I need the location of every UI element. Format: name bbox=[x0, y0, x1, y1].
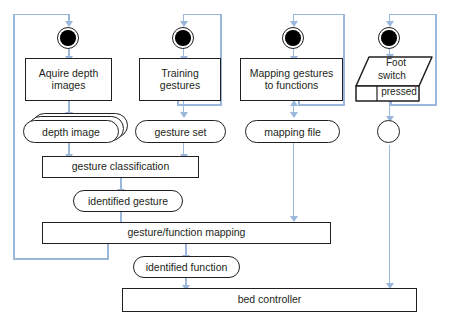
action-bed-controller[interactable]: bed controller bbox=[122, 288, 417, 312]
connector-loop4-bottom bbox=[390, 104, 436, 106]
object-node-gesture-set-label: gesture set bbox=[155, 126, 207, 138]
action-bed-controller-label: bed controller bbox=[235, 294, 305, 306]
action-training-gestures[interactable]: Training gestures bbox=[139, 58, 221, 101]
start-node-acquire-depth-images[interactable] bbox=[57, 27, 79, 49]
object-node-depth-image-label: depth image bbox=[42, 126, 100, 138]
object-node-identified-gesture[interactable]: identified gesture bbox=[73, 190, 183, 212]
arrowhead-gestureset bbox=[180, 112, 188, 118]
connector-loop2-top bbox=[183, 14, 222, 16]
arrowhead-mappingfile-down bbox=[290, 112, 298, 118]
action-mapping-gestures-line2: to functions bbox=[265, 79, 319, 91]
object-node-depth-image[interactable]: depth image bbox=[23, 120, 119, 143]
connector-loop3-right bbox=[343, 14, 345, 106]
connector-loop4-top bbox=[389, 14, 437, 16]
connector-mappingfile-to-mapping bbox=[293, 142, 295, 218]
action-gesture-classification-label: gesture classification bbox=[69, 161, 172, 173]
activity-diagram-canvas: Aquire depth images Training gestures Ma… bbox=[0, 0, 449, 324]
object-node-identified-function[interactable]: identified function bbox=[133, 256, 240, 278]
action-acquire-depth-images-line2: images bbox=[52, 79, 86, 91]
foot-switch-label-line1: Foot bbox=[371, 58, 421, 69]
connector-loop1-bottom bbox=[13, 258, 109, 260]
action-acquire-depth-images[interactable]: Aquire depth images bbox=[25, 58, 112, 101]
action-gesture-function-mapping-label: gesture/function mapping bbox=[125, 227, 249, 239]
signal-foot-switch-pressed[interactable]: Foot switch pressed bbox=[355, 56, 433, 102]
action-acquire-depth-images-line1: Aquire depth bbox=[39, 67, 99, 79]
action-training-gestures-line1: Training bbox=[161, 67, 199, 79]
start-node-foot-switch[interactable] bbox=[378, 27, 400, 49]
start-node-mapping-gestures[interactable] bbox=[282, 27, 304, 49]
action-gesture-function-mapping[interactable]: gesture/function mapping bbox=[42, 222, 331, 244]
foot-switch-label-line2: switch bbox=[367, 71, 417, 82]
connector-loop3-top bbox=[293, 14, 345, 16]
action-training-gestures-line2: gestures bbox=[160, 79, 200, 91]
connector-loop4-right bbox=[435, 14, 437, 106]
object-node-mapping-file[interactable]: mapping file bbox=[245, 120, 340, 143]
object-node-mapping-file-label: mapping file bbox=[264, 126, 321, 138]
connector-loop1-top bbox=[13, 14, 69, 16]
connector-loop1-riser bbox=[107, 243, 109, 259]
connector-circle-to-bedcontroller bbox=[389, 145, 391, 285]
object-node-gesture-set[interactable]: gesture set bbox=[135, 120, 226, 143]
connector-loop1-left bbox=[13, 14, 15, 260]
action-mapping-gestures-line1: Mapping gestures bbox=[250, 67, 333, 79]
start-node-training-gestures[interactable] bbox=[172, 27, 194, 49]
connector-loop3-bottom bbox=[298, 104, 344, 106]
node-circle-foot-switch[interactable] bbox=[377, 120, 400, 143]
object-node-identified-gesture-label: identified gesture bbox=[88, 195, 168, 207]
foot-switch-label-line3: pressed bbox=[375, 87, 423, 98]
action-gesture-classification[interactable]: gesture classification bbox=[42, 156, 199, 178]
action-mapping-gestures-to-functions[interactable]: Mapping gestures to functions bbox=[240, 58, 343, 101]
object-node-identified-function-label: identified function bbox=[146, 261, 228, 273]
